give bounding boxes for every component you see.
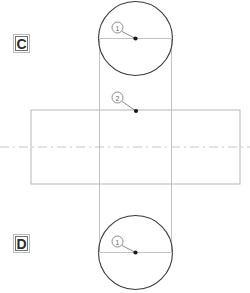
balloon-1-top-marker-dot xyxy=(133,36,137,40)
balloon-2-middle-marker-dot xyxy=(134,109,138,113)
balloon-1-bottom[interactable]: 1 xyxy=(112,236,138,255)
technical-drawing-canvas: 1 2 1 C D xyxy=(0,0,250,293)
balloon-1-top-label: 1 xyxy=(116,25,120,32)
view-tag-d-label: D xyxy=(16,237,26,251)
balloon-1-bottom-marker-dot xyxy=(133,250,137,254)
balloon-2-middle-label: 2 xyxy=(116,95,120,102)
view-tag-c-label: C xyxy=(16,37,26,51)
view-tag-d[interactable]: D xyxy=(13,234,30,253)
balloon-1-top[interactable]: 1 xyxy=(112,22,138,41)
balloon-1-top-leader-line xyxy=(122,32,136,39)
drawing-vector-layer: 1 2 1 xyxy=(0,0,250,293)
balloon-1-bottom-leader-line xyxy=(122,246,136,253)
view-tag-c[interactable]: C xyxy=(13,34,30,53)
balloon-1-bottom-label: 1 xyxy=(116,239,120,246)
